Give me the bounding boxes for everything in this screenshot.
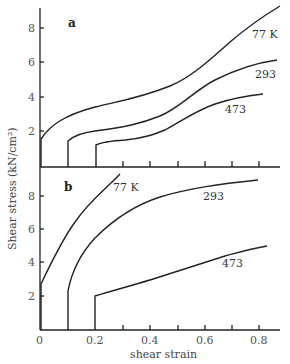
b-label-77k: 77 K bbox=[113, 181, 139, 194]
xtick-0-8: 0.8 bbox=[250, 334, 268, 347]
xtick-0-6: 0.6 bbox=[196, 334, 214, 347]
b-ytick-8: 8 bbox=[28, 190, 35, 203]
a-ytick-4: 4 bbox=[28, 91, 35, 104]
a-label-293: 293 bbox=[255, 68, 276, 81]
b-ytick-2: 2 bbox=[28, 290, 35, 303]
panel-a-label: a bbox=[68, 16, 76, 30]
panel-b-label: b bbox=[64, 180, 72, 194]
chart-figure: a b 8 6 4 2 8 6 4 2 0 0.2 0.4 0.6 0.8 sh… bbox=[0, 0, 290, 364]
a-label-77k: 77 K bbox=[252, 28, 278, 41]
x-axis-title: shear strain bbox=[130, 348, 197, 361]
y-axis-title: Shear stress (kN/cm²) bbox=[6, 127, 19, 250]
curve-a-77k bbox=[41, 6, 280, 167]
curve-b-77k bbox=[41, 174, 120, 330]
panel-a-curves bbox=[41, 6, 280, 167]
xtick-0-2: 0.2 bbox=[86, 334, 104, 347]
a-ytick-2: 2 bbox=[28, 125, 35, 138]
xtick-0-4: 0.4 bbox=[141, 334, 159, 347]
b-ytick-4: 4 bbox=[28, 256, 35, 269]
b-label-293: 293 bbox=[203, 190, 224, 203]
panel-b-axes bbox=[40, 167, 280, 330]
panel-b-curves bbox=[41, 174, 267, 330]
a-ytick-6: 6 bbox=[28, 56, 35, 69]
b-ytick-6: 6 bbox=[28, 223, 35, 236]
a-ytick-8: 8 bbox=[28, 22, 35, 35]
xtick-0: 0 bbox=[36, 334, 43, 347]
panel-a-axes bbox=[40, 8, 280, 167]
a-label-473: 473 bbox=[225, 103, 246, 116]
b-label-473: 473 bbox=[222, 257, 243, 270]
